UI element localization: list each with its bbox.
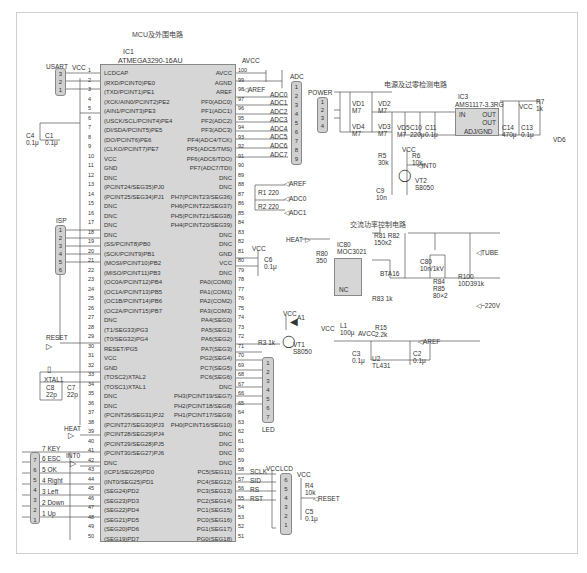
ac220-port: ◁~220V <box>476 302 500 309</box>
adc7-net: ADC7 <box>270 151 287 158</box>
mcu-pin-label: PA2(COM2) <box>200 297 232 306</box>
r15-avcc: AVCC <box>358 330 376 337</box>
vd4-label: VD4M7 <box>352 123 365 137</box>
mcu-pin-number: 85 <box>238 209 244 218</box>
mcu-pin-label: PH3(PCINT19/SEG7) <box>174 392 232 401</box>
mcu-pin-label: PA6(SEG2) <box>201 335 232 344</box>
mcu-pin-label: PC0(SEG16) <box>197 516 232 525</box>
mcu-pin-number: 10 <box>88 152 94 161</box>
mcu-pin-label: (PCINT26/SEG31)PJ2 <box>104 411 164 420</box>
pin-num: 7 <box>263 414 273 420</box>
mcu-pin-label: (MOSI/PCINT10)PB2 <box>104 259 161 268</box>
vd3-label: VD3M7 <box>378 123 391 137</box>
pin-num: 2 <box>56 235 65 241</box>
key-connector: 7 6 5 4 3 2 1 <box>30 452 40 524</box>
r83-label: R83 1k <box>372 295 393 302</box>
r4-vcc: VCC <box>297 471 311 478</box>
crystal-icon: ▯ <box>47 366 51 373</box>
isp-connector: 1 2 3 4 5 6 <box>55 225 66 275</box>
pin-num: 6 <box>31 467 39 473</box>
pin-num: 3 <box>56 243 65 249</box>
mcu-pin-number: 69 <box>238 361 244 370</box>
mcu-pin-label: (MISO/PCINT11)PB3 <box>104 269 161 278</box>
pin-num: 2 <box>292 93 301 99</box>
mcu-pin-number: 19 <box>88 237 94 246</box>
mcu-pin-label: (OC1B/PCINT14)PB6 <box>104 297 162 306</box>
key-net-key: 7 KEY <box>42 445 60 452</box>
reset-port: ◁RESET <box>313 495 340 502</box>
r1-label: R1 220 <box>258 189 279 196</box>
mcu-pin-label: (PCINT25/SEG34)PJ1 <box>104 193 164 202</box>
r2-label: R2 220 <box>258 203 279 210</box>
mcu-pin-label: (PCINT27/SEG30)PJ3 <box>104 421 164 430</box>
sid-net: SID <box>250 477 261 484</box>
mcu-pin-label: (RXD/PCINT0)PE0 <box>104 79 155 88</box>
mcu-pin-number: 21 <box>88 256 94 265</box>
mcu-pin-label: PA4(SEG0) <box>201 316 232 325</box>
mcu-pin-label: PC3(SEG13) <box>197 487 232 496</box>
mcu-pin-label: PC7(SEG5) <box>200 364 232 373</box>
vd1-label: VD1M7 <box>352 100 365 114</box>
mcu-pin-label: PC2(SEG14) <box>197 497 232 506</box>
adc6-net: ADC6 <box>270 142 287 149</box>
mcu-pin-label: (XCK/AIN0/PCINT2)PE2 <box>104 98 170 107</box>
mcu-pin-label: PF2(ADC2) <box>201 117 232 126</box>
mcu-pin-number: 72 <box>238 332 244 341</box>
mcu-pin-label: PH1(PCINT17/SEG9) <box>174 411 232 420</box>
mcu-pin-number: 53 <box>238 513 244 522</box>
mcu-pin-number: 11 <box>88 161 94 170</box>
mcu-pin-number: 12 <box>88 171 94 180</box>
mcu-pin-label: PA5(SEG1) <box>201 326 232 335</box>
pin-num: 2 <box>281 513 291 519</box>
mcu-pin-number: 42 <box>88 456 94 465</box>
mcu-pin-label: PA0(COM0) <box>200 278 232 287</box>
mcu-pin-number: 13 <box>88 180 94 189</box>
mcu-pin-number: 52 <box>238 522 244 531</box>
pin-num: 9 <box>292 156 301 162</box>
mcu-pin-label: (SEG23)PD3 <box>104 497 139 506</box>
ic3-vcc: VCC <box>519 103 533 110</box>
mcu-pin-number: 22 <box>88 266 94 275</box>
ic80-chip: NC <box>334 258 362 296</box>
mcu-pin-number: 4 <box>88 95 91 104</box>
rst-net: RST <box>250 495 263 502</box>
ic3-ref: IC3 <box>458 93 468 100</box>
mcu-pin-number: 67 <box>238 380 244 389</box>
mcu-pin-label: (CLKO/PCINT7)PE7 <box>104 145 159 154</box>
transistor-vt2-icon: ◯ <box>398 172 411 179</box>
pin-num: 4 <box>263 387 273 393</box>
mcu-pin-label: DNC <box>104 459 117 468</box>
mcu-pin-label: DNC <box>219 383 232 392</box>
mcu-pin-label: AGND <box>215 79 232 88</box>
mcu-pin-label: PH2(PCINT18/SEG8) <box>174 402 232 411</box>
mcu-pin-number: 44 <box>88 475 94 484</box>
lcd-connector: 6 5 4 3 2 1 <box>280 473 292 535</box>
r7-label: R71k <box>536 98 544 112</box>
mcu-section-title: MCU及外围电路 <box>132 31 183 38</box>
pin-num: 5 <box>263 396 273 402</box>
ic80-label: IC80MOC3021 <box>337 241 367 255</box>
int0-port: ◁INT0 <box>417 162 436 169</box>
mcu-pin-label: PC6(SEG6) <box>200 373 232 382</box>
mcu-pin-number: 87 <box>238 190 244 199</box>
mcu-pin-number: 49 <box>88 522 94 531</box>
mcu-pin-label: (PCINT28/SEG29)PJ4 <box>104 430 164 439</box>
adc-connector: 1 2 3 4 5 6 7 8 9 <box>291 81 302 165</box>
pin-num: 3 <box>292 102 301 108</box>
mcu-pin-number: 15 <box>88 199 94 208</box>
mcu-pin-label: VCC <box>104 354 117 363</box>
mcu-pin-label: (PCINT29/SEG28)PJ5 <box>104 440 164 449</box>
mcu-pin-label: PA7(SEG3) <box>201 345 232 354</box>
r4-label: R410k <box>305 482 315 496</box>
mcu-pin-label: (SEG21)PD5 <box>104 516 139 525</box>
mcu-pin-label: PA1(COM1) <box>200 288 232 297</box>
mcu-pin-label: PG0(SEG18) <box>197 535 232 544</box>
pin-num: 1 <box>318 99 327 105</box>
pin-num: 2 <box>56 79 65 85</box>
mcu-pin-label: PA3(COM3) <box>200 307 232 316</box>
mcu-pin-number: 68 <box>238 370 244 379</box>
tube-port: ◁TUBE <box>476 249 498 256</box>
mcu-pin-number: 47 <box>88 503 94 512</box>
mcu-pin-number: 82 <box>238 237 244 246</box>
adc5-net: ADC5 <box>270 133 287 140</box>
